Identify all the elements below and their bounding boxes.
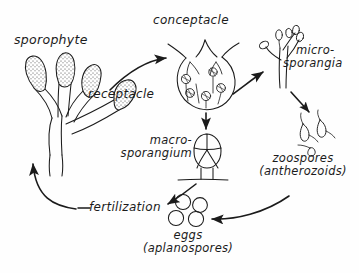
arrow-fertilization-to-sporophyte: [33, 164, 76, 209]
arrow-zoospores-to-eggs: [212, 196, 289, 219]
label-microsporangia-line1: micro-: [296, 44, 343, 57]
zoospores-group: [298, 110, 335, 156]
label-macrosporangium-line2: sporangium: [100, 147, 192, 160]
label-receptacle: receptacle: [88, 88, 154, 101]
label-conceptacle: conceptacle: [153, 14, 229, 27]
label-eggs-line1: eggs: [133, 229, 243, 242]
conceptacle-chamber: [168, 40, 239, 110]
label-eggs-line2: (aplanospores): [133, 242, 243, 255]
label-eggs: eggs (aplanospores): [133, 229, 243, 255]
diagram-canvas: sporophyte receptacle conceptacle micro-…: [0, 0, 359, 273]
label-sporophyte: sporophyte: [14, 33, 88, 47]
arrow-microsporangia-to-zoospores: [291, 92, 309, 112]
label-fertilization: fertilization: [89, 201, 161, 214]
label-macrosporangium-line1: macro-: [100, 134, 192, 147]
label-zoospores-line2: (antherozoids): [250, 165, 356, 178]
label-microsporangia: micro- sporangia: [296, 44, 343, 70]
label-microsporangia-line2: sporangia: [283, 57, 343, 70]
label-zoospores-line1: zoospores: [250, 152, 356, 165]
arrow-macrosporangium-to-eggs: [168, 184, 196, 204]
label-macrosporangium: macro- sporangium: [100, 134, 192, 160]
label-zoospores: zoospores (antherozoids): [250, 152, 356, 178]
arrow-conceptacle-to-microsporangia: [233, 72, 263, 94]
